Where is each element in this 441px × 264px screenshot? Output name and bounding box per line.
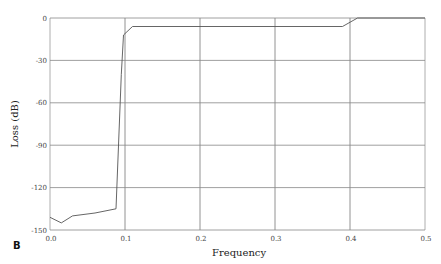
x-tick-label: 0.5 xyxy=(420,235,431,243)
loss-frequency-chart: 0.00.10.20.30.40.50-30-60-90-120-150 Fre… xyxy=(0,0,441,264)
y-axis-label: Loss (dB) xyxy=(9,100,20,148)
axis-ticks: 0.00.10.20.30.40.50-30-60-90-120-150 xyxy=(31,15,431,244)
x-tick-label: 0.2 xyxy=(195,235,206,243)
y-tick-label: 0 xyxy=(43,15,47,23)
x-tick-label: 0.1 xyxy=(120,235,131,243)
y-tick-label: -90 xyxy=(36,142,47,150)
y-tick-label: -120 xyxy=(31,184,47,192)
x-tick-label: 0.4 xyxy=(345,235,357,243)
y-tick-label: -30 xyxy=(36,57,47,65)
panel-label: B xyxy=(13,240,21,251)
x-tick-label: 0.0 xyxy=(45,235,56,243)
x-tick-label: 0.3 xyxy=(270,235,281,243)
y-tick-label: -60 xyxy=(36,99,47,107)
loss-curve xyxy=(50,18,425,223)
grid-lines xyxy=(50,18,425,230)
y-tick-label: -150 xyxy=(31,227,47,235)
x-axis-label: Frequency xyxy=(212,247,266,258)
